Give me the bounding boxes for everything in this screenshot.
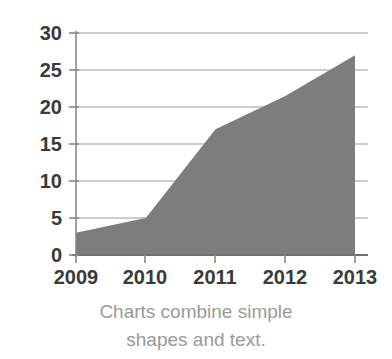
x-axis-ticks (76, 255, 355, 263)
chart-plot-region: 30 25 20 15 10 5 0 2009 2010 2011 2012 2… (0, 0, 392, 300)
x-axis-label-2012: 2012 (252, 266, 318, 288)
x-axis-label-row: 2009 2010 2011 2012 2013 (0, 266, 392, 292)
area-series-fill (76, 55, 355, 255)
y-axis-label-20: 20 (16, 97, 62, 117)
x-axis-label-2013: 2013 (322, 266, 388, 288)
y-axis-label-10: 10 (16, 171, 62, 191)
y-axis-label-15: 15 (16, 134, 62, 154)
y-axis-label-25: 25 (16, 60, 62, 80)
y-axis-label-0: 0 (16, 245, 62, 265)
figure-caption: Charts combine simple shapes and text. (0, 298, 392, 354)
caption-line-1: Charts combine simple (0, 298, 392, 326)
y-axis-ticks (69, 33, 79, 255)
y-axis-label-30: 30 (16, 23, 62, 43)
y-axis-label-5: 5 (16, 208, 62, 228)
x-axis-label-2011: 2011 (182, 266, 248, 288)
x-axis-label-2009: 2009 (43, 266, 109, 288)
x-axis-label-2010: 2010 (112, 266, 178, 288)
figure-area-chart-with-caption: 30 25 20 15 10 5 0 2009 2010 2011 2012 2… (0, 0, 392, 359)
caption-line-2: shapes and text. (0, 326, 392, 354)
